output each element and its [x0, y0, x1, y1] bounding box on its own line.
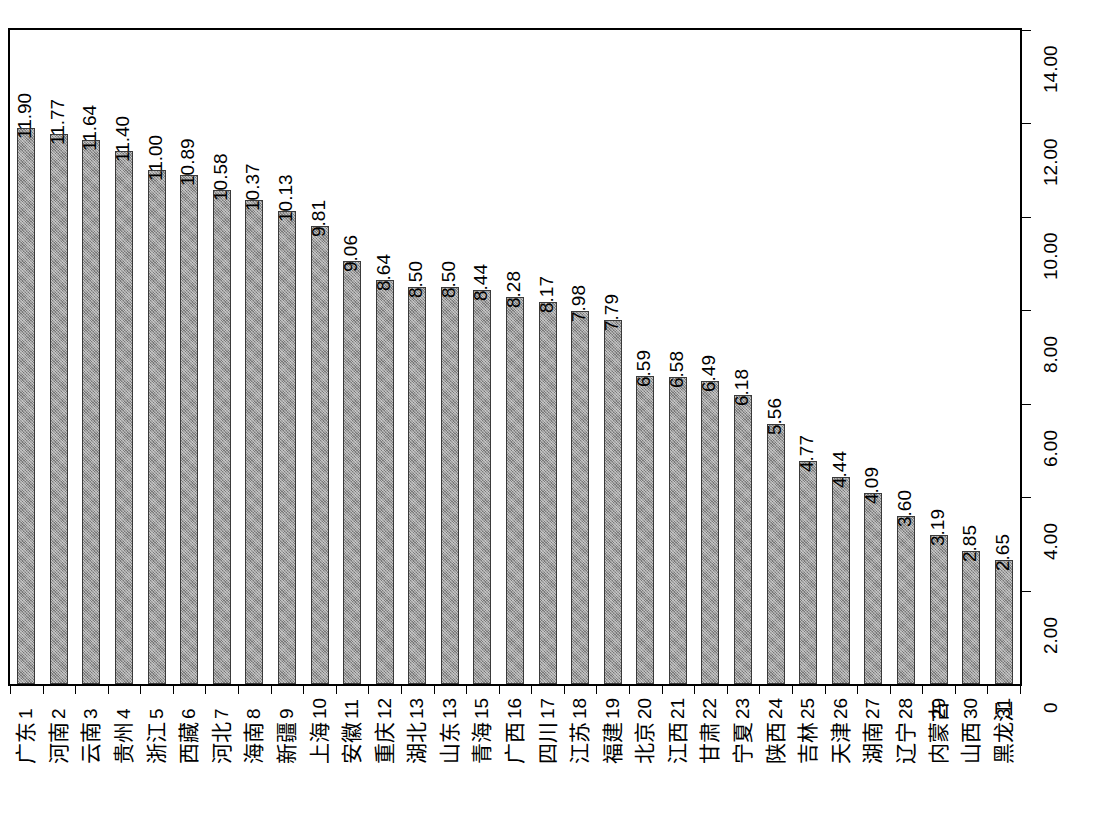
- x-rank-label: 27: [863, 698, 882, 719]
- x-rank-label: 19: [603, 698, 622, 719]
- bar-value-label: 6.59: [634, 350, 653, 387]
- x-rank-label: 8: [244, 708, 263, 719]
- x-category-label: 宁夏: [733, 722, 754, 764]
- x-tick: [890, 686, 891, 694]
- x-tick: [629, 686, 630, 694]
- bar: [180, 175, 198, 684]
- y-tick-label: 8.00: [1041, 336, 1060, 373]
- x-tick: [955, 686, 956, 694]
- x-tick: [271, 686, 272, 694]
- bar: [669, 377, 687, 684]
- x-rank-label: 30: [961, 698, 980, 719]
- bar: [636, 376, 654, 684]
- bar: [995, 560, 1013, 684]
- y-tick: [1022, 123, 1031, 124]
- x-category-label: 江苏: [570, 722, 591, 764]
- x-rank-label: 13: [440, 698, 459, 719]
- bar: [245, 200, 263, 684]
- bar: [701, 381, 719, 684]
- bar-value-label: 7.98: [569, 285, 588, 322]
- y-tick: [1022, 217, 1031, 218]
- y-tick: [1022, 497, 1031, 498]
- bar: [82, 140, 100, 684]
- bar-value-label: 4.09: [862, 467, 881, 504]
- x-category-label: 北京: [635, 722, 656, 764]
- bar: [832, 477, 850, 684]
- bar-value-label: 10.13: [276, 174, 295, 222]
- bar-value-label: 8.17: [537, 276, 556, 313]
- x-rank-label: 17: [538, 698, 557, 719]
- x-category-label: 湖南: [863, 722, 884, 764]
- x-rank-label: 6: [179, 708, 198, 719]
- x-rank-label: 2: [49, 708, 68, 719]
- x-rank-label: 25: [798, 698, 817, 719]
- bar: [50, 134, 68, 684]
- x-category-label: 河南: [49, 722, 70, 764]
- bar: [408, 287, 426, 684]
- x-rank-label: 24: [766, 698, 785, 719]
- x-rank-label: 12: [375, 698, 394, 719]
- x-rank-label: 4: [114, 708, 133, 719]
- x-category-label: 山西: [961, 722, 982, 764]
- x-category-label: 甘肃: [700, 722, 721, 764]
- x-category-label: 江西: [668, 722, 689, 764]
- x-tick: [1020, 686, 1021, 694]
- bar-value-label: 4.77: [797, 435, 816, 472]
- x-category-label: 福建: [603, 722, 624, 764]
- bar: [148, 170, 166, 684]
- x-category-label: 吉林: [798, 722, 819, 764]
- x-tick: [43, 686, 44, 694]
- y-tick-label: 10.00: [1041, 232, 1060, 280]
- x-category-label: 河北: [212, 722, 233, 764]
- bar-value-label: 7.79: [602, 294, 621, 331]
- x-category-label: 四川: [538, 722, 559, 764]
- x-tick: [434, 686, 435, 694]
- x-category-label: 青海: [472, 722, 493, 764]
- bar-value-label: 6.58: [667, 351, 686, 388]
- x-rank-label: 21: [668, 698, 687, 719]
- x-rank-label: 15: [472, 698, 491, 719]
- bar: [734, 395, 752, 684]
- x-tick: [303, 686, 304, 694]
- x-category-label: 山东: [440, 722, 461, 764]
- plot-area: [8, 28, 1022, 686]
- y-tick-label: 0: [1041, 702, 1060, 713]
- bar: [506, 297, 524, 684]
- bar: [604, 320, 622, 684]
- x-tick: [368, 686, 369, 694]
- x-tick: [759, 686, 760, 694]
- x-tick: [75, 686, 76, 694]
- x-tick: [825, 686, 826, 694]
- x-rank-label: 11: [342, 699, 361, 719]
- y-tick: [1022, 310, 1031, 311]
- y-tick-label: 4.00: [1041, 523, 1060, 560]
- bar: [343, 261, 361, 684]
- y-tick: [1022, 404, 1031, 405]
- x-category-label: 海南: [244, 722, 265, 764]
- x-tick: [401, 686, 402, 694]
- x-category-label: 湖北: [407, 722, 428, 764]
- bar: [115, 151, 133, 684]
- x-rank-label: 7: [212, 708, 231, 719]
- bar: [864, 493, 882, 684]
- x-rank-label: 18: [570, 698, 589, 719]
- bar: [897, 516, 915, 684]
- bar-value-label: 2.65: [993, 534, 1012, 571]
- x-tick: [694, 686, 695, 694]
- x-tick: [922, 686, 923, 694]
- bar: [571, 311, 589, 684]
- x-tick: [857, 686, 858, 694]
- bars-layer: [10, 30, 1020, 684]
- bar-value-label: 8.44: [471, 264, 490, 301]
- x-tick: [564, 686, 565, 694]
- x-tick: [140, 686, 141, 694]
- bar-value-label: 4.44: [830, 451, 849, 488]
- bar-value-label: 3.19: [928, 509, 947, 546]
- bar-value-label: 10.58: [211, 153, 230, 201]
- x-category-label: 贵州: [114, 722, 135, 764]
- bar: [799, 461, 817, 684]
- x-category-label: 安徽: [342, 722, 363, 764]
- bar-value-label: 5.56: [765, 398, 784, 435]
- bar: [767, 424, 785, 684]
- y-tick-label: 2.00: [1041, 617, 1060, 654]
